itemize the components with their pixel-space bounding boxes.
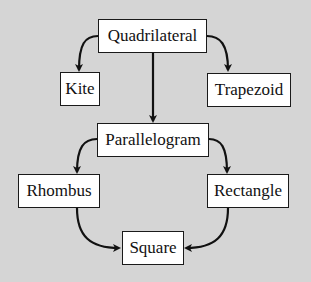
node-square: Square (122, 231, 184, 265)
node-rectangle: Rectangle (207, 174, 289, 208)
quadrilateral-hierarchy-diagram: Quadrilateral Kite Trapezoid Parallelogr… (0, 0, 311, 282)
edge-quadrilateral-kite (79, 36, 98, 70)
node-label: Rhombus (26, 181, 91, 201)
node-label: Parallelogram (105, 130, 200, 150)
edge-quadrilateral-trapezoid (207, 36, 228, 70)
node-quadrilateral: Quadrilateral (98, 19, 207, 53)
edge-rhombus-square (77, 208, 119, 248)
node-rhombus: Rhombus (18, 174, 100, 208)
node-label: Kite (65, 79, 94, 99)
node-label: Square (129, 238, 176, 258)
node-parallelogram: Parallelogram (97, 123, 209, 157)
node-label: Rectangle (214, 181, 282, 201)
node-label: Trapezoid (215, 80, 283, 100)
node-trapezoid: Trapezoid (207, 73, 291, 107)
edge-rectangle-square (186, 208, 228, 248)
edge-parallelogram-rectangle (209, 139, 227, 172)
node-label: Quadrilateral (108, 26, 198, 46)
node-kite: Kite (60, 72, 100, 106)
edge-parallelogram-rhombus (77, 139, 97, 172)
